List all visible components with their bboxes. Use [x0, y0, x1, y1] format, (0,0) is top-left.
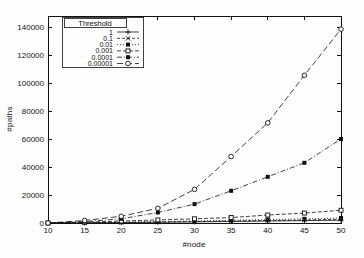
open-circle-marker	[302, 73, 307, 78]
y-tick-label: 0	[40, 219, 45, 228]
open-square-marker	[156, 218, 160, 222]
open-circle-marker	[119, 214, 124, 219]
plot-canvas: 1015202530354045500200004000060000800001…	[0, 0, 364, 258]
y-tick-label: 140000	[17, 23, 44, 32]
chart-figure: 1015202530354045500200004000060000800001…	[0, 0, 364, 258]
x-tick-label: 45	[300, 226, 309, 235]
filled-square-marker	[266, 218, 270, 222]
x-tick-label: 20	[117, 226, 126, 235]
filled-square-marker	[339, 137, 343, 141]
y-tick-label: 60000	[22, 135, 45, 144]
x-tick-label: 25	[153, 226, 162, 235]
legend-title: Threshold	[78, 19, 111, 28]
open-circle-marker	[265, 121, 270, 126]
y-tick-label: 100000	[17, 79, 44, 88]
open-circle-marker	[126, 61, 131, 66]
open-square-marker	[339, 208, 343, 212]
y-tick-label: 40000	[22, 163, 45, 172]
open-square-marker	[193, 217, 197, 221]
filled-square-marker	[302, 217, 306, 221]
legend-item-label: 0.00001	[88, 60, 113, 67]
filled-square-marker	[339, 216, 343, 220]
open-circle-marker	[339, 27, 344, 32]
filled-square-marker	[266, 175, 270, 179]
x-tick-label: 50	[337, 226, 346, 235]
filled-square-marker	[193, 202, 197, 206]
open-circle-marker	[82, 218, 87, 223]
x-tick-label: 10	[44, 226, 53, 235]
filled-square-marker	[126, 55, 130, 59]
y-tick-label: 80000	[22, 107, 45, 116]
filled-square-marker	[302, 161, 306, 165]
x-tick-label: 15	[80, 226, 89, 235]
open-square-marker	[229, 216, 233, 220]
open-circle-marker	[46, 221, 51, 226]
x-tick-label: 30	[190, 226, 199, 235]
series-0.0001	[46, 137, 343, 225]
filled-square-marker	[156, 211, 160, 215]
filled-square-marker	[229, 189, 233, 193]
open-circle-marker	[229, 154, 234, 159]
x-tick-label: 40	[263, 226, 272, 235]
legend: Threshold10.10.010.0010.00010.00001	[62, 17, 143, 67]
open-square-marker	[126, 49, 130, 53]
x-axis-label: #node	[144, 240, 244, 250]
x-tick-label: 35	[227, 226, 236, 235]
y-tick-label: 120000	[17, 51, 44, 60]
filled-square-marker	[126, 43, 130, 47]
y-tick-label: 20000	[22, 191, 45, 200]
open-square-marker	[266, 213, 270, 217]
open-square-marker	[302, 211, 306, 215]
y-axis-label: #paths	[5, 89, 15, 149]
open-circle-marker	[192, 187, 197, 192]
open-circle-marker	[156, 206, 161, 211]
